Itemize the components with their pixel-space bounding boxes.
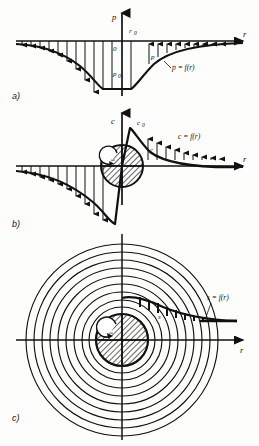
panel-a-depth-label: p 0 <box>112 70 121 79</box>
svg-text:r: r <box>129 27 132 35</box>
panel-b-letter: b) <box>12 219 20 229</box>
svg-text:ω: ω <box>109 330 113 335</box>
panel-a-function-label: p = f(r) <box>171 63 195 72</box>
panel-c-r-axis-label: r <box>240 345 244 355</box>
panel-c-letter: c) <box>12 413 20 423</box>
figure-canvas: p r 0 r 0 p 0 p p = f(r) a) <box>0 0 259 446</box>
svg-text:0: 0 <box>142 122 145 128</box>
panel-a-pressure-curve <box>16 43 243 89</box>
panel-a-r-axis-label: r <box>243 29 247 39</box>
panel-a-core-droplines <box>103 41 131 89</box>
panel-b-peak-label: c 0 <box>137 119 145 128</box>
panel-a-core-radius-label: r 0 <box>129 27 137 36</box>
svg-text:0: 0 <box>134 30 137 36</box>
panel-a-pressure-arrows-right <box>149 44 221 64</box>
panel-a-letter: a) <box>12 91 20 101</box>
panel-a-origin-label: 0 <box>113 45 117 53</box>
panel-c-curve-value-label: s <box>158 313 161 321</box>
panel-c-function-label: s = f(r) <box>207 293 229 302</box>
svg-text:0: 0 <box>118 73 121 79</box>
svg-text:c: c <box>137 119 141 127</box>
svg-text:ω: ω <box>111 157 115 162</box>
panel-c: ω s s = f(r) r c) <box>12 234 244 440</box>
panel-a-arrow-value-label: p <box>150 53 155 61</box>
technical-figure: p r 0 r 0 p 0 p p = f(r) a) <box>0 0 259 446</box>
panel-a-p-axis-label: p <box>111 12 116 22</box>
panel-a-pressure-arrows-left <box>22 41 94 92</box>
panel-b-function-label: c = f(r) <box>178 132 201 141</box>
panel-c-leader-line <box>206 303 211 317</box>
panel-b-c-axis-label: c <box>111 116 115 126</box>
panel-a: p r 0 r 0 p 0 p p = f(r) a) <box>12 12 247 101</box>
panel-b: ω c r c 0 c c = f(r) b) <box>12 113 247 229</box>
panel-b-arrow-value-label: c <box>150 146 154 154</box>
panel-b-r-axis-label: r <box>243 154 247 164</box>
panel-a-leader-line <box>164 61 171 68</box>
svg-text:p: p <box>112 70 117 78</box>
